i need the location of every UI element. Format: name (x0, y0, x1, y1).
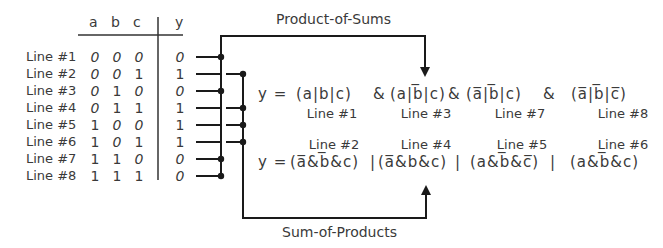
arrow-down-icon (420, 67, 430, 77)
cell-c: 1 (132, 168, 146, 184)
sop-operator: | (550, 153, 556, 171)
row-label: Line #7 (26, 151, 76, 166)
cell-c: 0 (132, 83, 146, 99)
cell-b: 0 (110, 49, 124, 65)
cell-c: 0 (132, 117, 146, 133)
header-c: c (133, 14, 141, 30)
sop-term: (a&b̅&c̅) (470, 153, 539, 171)
cell-b: 1 (110, 151, 124, 167)
cell-b: 1 (110, 100, 124, 116)
cell-y: 1 (173, 100, 187, 116)
cell-y: 0 (173, 168, 187, 184)
row-label: Line #4 (26, 100, 76, 115)
pos-line-label: Line #8 (583, 106, 663, 121)
sop-line-label: Line #6 (583, 137, 663, 152)
cell-b: 0 (110, 134, 124, 150)
row-label: Line #2 (26, 66, 76, 81)
sop-term: (a&b̅&c) (570, 153, 639, 171)
sop-term: (a̅&b&c) (378, 153, 447, 171)
cell-a: 0 (88, 83, 102, 99)
pos-term: (a|b̅|c) (390, 85, 446, 103)
pos-line-label: Line #3 (386, 106, 466, 121)
row-label: Line #6 (26, 134, 76, 149)
cell-y: 1 (173, 117, 187, 133)
sop-line-label: Line #2 (294, 137, 374, 152)
cell-a: 0 (88, 49, 102, 65)
row-label: Line #5 (26, 117, 76, 132)
cell-b: 0 (110, 117, 124, 133)
pos-operator: & (448, 85, 461, 103)
pos-operator: & (543, 85, 556, 103)
cell-y: 0 (173, 49, 187, 65)
cell-y: 0 (173, 83, 187, 99)
pos-prefix: y = (258, 85, 287, 103)
cell-a: 0 (88, 66, 102, 82)
header-y: y (175, 14, 183, 30)
sop-line-label: Line #4 (386, 137, 466, 152)
pos-term: (a|b|c) (296, 85, 352, 103)
sop-operator: | (370, 153, 376, 171)
cell-y: 0 (173, 151, 187, 167)
pos-line-label: Line #7 (480, 106, 560, 121)
cell-c: 1 (132, 66, 146, 82)
cell-y: 1 (173, 66, 187, 82)
cell-b: 0 (110, 66, 124, 82)
sop-operator: | (455, 153, 461, 171)
cell-c: 0 (132, 49, 146, 65)
cell-y: 1 (173, 134, 187, 150)
cell-c: 1 (132, 134, 146, 150)
row-label: Line #3 (26, 83, 76, 98)
cell-c: 0 (132, 151, 146, 167)
header-a: a (89, 14, 98, 30)
sop-prefix: y = (258, 153, 287, 171)
row-label: Line #8 (26, 168, 76, 183)
cell-a: 0 (88, 100, 102, 116)
header-b: b (111, 14, 120, 30)
cell-a: 1 (88, 168, 102, 184)
cell-a: 1 (88, 134, 102, 150)
cell-b: 1 (110, 83, 124, 99)
sop-term: (a̅&b̅&c) (290, 153, 359, 171)
pos-operator: & (373, 85, 386, 103)
product-of-sums-label: Product-of-Sums (276, 11, 391, 27)
pos-line-label: Line #1 (292, 106, 372, 121)
sum-of-products-label: Sum-of-Products (282, 224, 397, 240)
sop-line-label: Line #5 (482, 137, 562, 152)
cell-a: 1 (88, 117, 102, 133)
row-label: Line #1 (26, 49, 76, 64)
pos-term: (a̅|b̅|c̅) (571, 85, 627, 103)
pos-term: (a̅|b̅|c) (466, 85, 522, 103)
cell-a: 1 (88, 151, 102, 167)
cell-c: 1 (132, 100, 146, 116)
cell-b: 1 (110, 168, 124, 184)
arrow-up-icon (421, 185, 431, 195)
